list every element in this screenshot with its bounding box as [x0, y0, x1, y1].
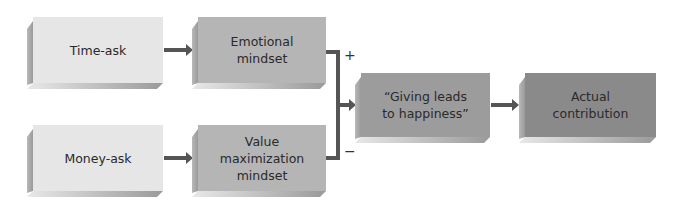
arrow-money-to-value	[164, 156, 186, 160]
node-emotional-line1: Emotional	[231, 33, 294, 50]
node-actual-line1: Actual	[553, 88, 629, 105]
node-actual-line2: contribution	[553, 105, 629, 122]
node-emotional-mindset: Emotional mindset	[198, 17, 326, 83]
node-money-ask-label: Money-ask	[64, 150, 131, 167]
arrowhead-icon	[186, 152, 193, 164]
arrow-giving-to-actual	[491, 103, 512, 107]
arrowhead-icon	[186, 44, 193, 56]
node-giving-line1: “Giving leads	[382, 88, 469, 105]
node-time-ask-label: Time-ask	[70, 42, 127, 59]
node-time-ask: Time-ask	[33, 17, 163, 83]
node-value-line3: mindset	[220, 167, 305, 184]
node-value-line1: Value	[220, 133, 305, 150]
node-money-ask: Money-ask	[33, 125, 163, 191]
minus-sign: −	[344, 143, 356, 159]
node-value-maximization-mindset: Value maximization mindset	[198, 125, 326, 191]
bracket-bottom	[326, 156, 340, 160]
node-value-line2: maximization	[220, 150, 305, 167]
arrowhead-icon	[349, 99, 356, 111]
node-giving-leads-to-happiness: “Giving leads to happiness”	[361, 73, 490, 137]
arrowhead-icon	[512, 99, 519, 111]
arrow-bracket-to-giving	[340, 103, 349, 107]
plus-sign: +	[344, 47, 356, 63]
node-emotional-line2: mindset	[231, 50, 294, 67]
arrow-time-to-emotional	[164, 48, 186, 52]
node-actual-contribution: Actual contribution	[525, 73, 656, 137]
node-giving-line2: to happiness”	[382, 105, 469, 122]
